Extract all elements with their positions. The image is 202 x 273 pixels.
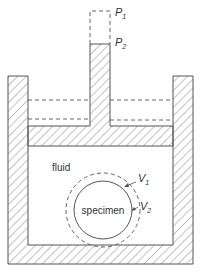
piston-initial-position-outline [90, 11, 110, 44]
v1-arrowhead [124, 183, 129, 187]
pycnometer-diagram: P1 P2 fluid specimen V1 V2 [0, 0, 202, 273]
p1-label: P1 [115, 6, 126, 20]
v2-label: V2 [140, 200, 151, 214]
piston [28, 44, 173, 146]
v1-label: V1 [138, 172, 149, 186]
fluid-label: fluid [52, 162, 70, 173]
specimen-label: specimen [82, 205, 125, 216]
p2-label: P2 [115, 36, 126, 50]
